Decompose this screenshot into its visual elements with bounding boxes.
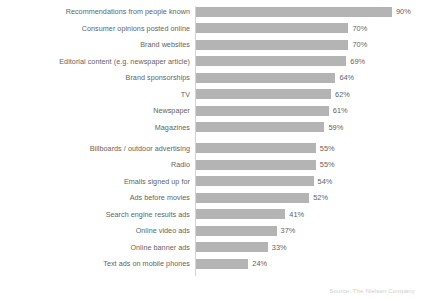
category-label: Search engine results ads (0, 209, 190, 220)
bar (196, 73, 335, 83)
value-label: 41% (289, 209, 304, 220)
bar-row: Brand sponsorships64% (0, 72, 424, 83)
bar-row: Billboards / outdoor advertising55% (0, 143, 424, 154)
value-label: 54% (318, 176, 333, 187)
category-label: Magazines (0, 122, 190, 133)
category-label: Brand sponsorships (0, 72, 190, 83)
bar (196, 193, 309, 203)
category-label: TV (0, 89, 190, 100)
value-label: 70% (352, 39, 367, 50)
value-label: 24% (252, 258, 267, 269)
category-label: Billboards / outdoor advertising (0, 143, 190, 154)
category-label: Emails signed up for (0, 176, 190, 187)
category-label: Radio (0, 159, 190, 170)
value-label: 33% (272, 242, 287, 253)
value-label: 69% (350, 56, 365, 67)
category-label: Recommendations from people known (0, 6, 190, 17)
bar (196, 89, 331, 99)
category-label: Consumer opinions posted online (0, 23, 190, 34)
value-label: 52% (313, 192, 328, 203)
bar (196, 106, 329, 116)
bar-row: Ads before movies52% (0, 192, 424, 203)
bar (196, 226, 277, 236)
value-label: 59% (328, 122, 343, 133)
value-label: 55% (320, 143, 335, 154)
value-label: 55% (320, 159, 335, 170)
bar (196, 122, 324, 132)
bar (196, 56, 346, 66)
bar-row: Search engine results ads41% (0, 209, 424, 220)
value-label: 90% (396, 6, 411, 17)
bar (196, 176, 314, 186)
bar (196, 23, 348, 33)
bar (196, 160, 316, 170)
bar-row: Recommendations from people known90% (0, 6, 424, 17)
bar-row: Online video ads37% (0, 225, 424, 236)
category-label: Online video ads (0, 225, 190, 236)
category-label: Ads before movies (0, 192, 190, 203)
bar-row: Emails signed up for54% (0, 176, 424, 187)
category-label: Online banner ads (0, 242, 190, 253)
bar-row: Editorial content (e.g. newspaper articl… (0, 56, 424, 67)
bar-row: Text ads on mobile phones24% (0, 258, 424, 269)
bar-row: Newspaper61% (0, 105, 424, 116)
bar-row: Radio55% (0, 159, 424, 170)
bar (196, 40, 348, 50)
bar-chart: Recommendations from people known90%Cons… (0, 0, 424, 299)
value-label: 64% (339, 72, 354, 83)
bar-row: Brand websites70% (0, 39, 424, 50)
bar (196, 259, 248, 269)
value-label: 37% (281, 225, 296, 236)
bar-row: TV62% (0, 89, 424, 100)
category-label: Editorial content (e.g. newspaper articl… (0, 56, 190, 67)
category-label: Brand websites (0, 39, 190, 50)
bar-row: Magazines59% (0, 122, 424, 133)
value-label: 62% (335, 89, 350, 100)
category-label: Text ads on mobile phones (0, 258, 190, 269)
source-note: Source: The Nielsen Company (329, 288, 415, 294)
bar-row: Online banner ads33% (0, 242, 424, 253)
bar (196, 209, 285, 219)
bar (196, 242, 268, 252)
plot-area: Recommendations from people known90%Cons… (0, 4, 424, 276)
bar (196, 143, 316, 153)
category-label: Newspaper (0, 105, 190, 116)
value-label: 61% (333, 105, 348, 116)
bar-row: Consumer opinions posted online70% (0, 23, 424, 34)
bar (196, 7, 392, 17)
value-label: 70% (352, 23, 367, 34)
